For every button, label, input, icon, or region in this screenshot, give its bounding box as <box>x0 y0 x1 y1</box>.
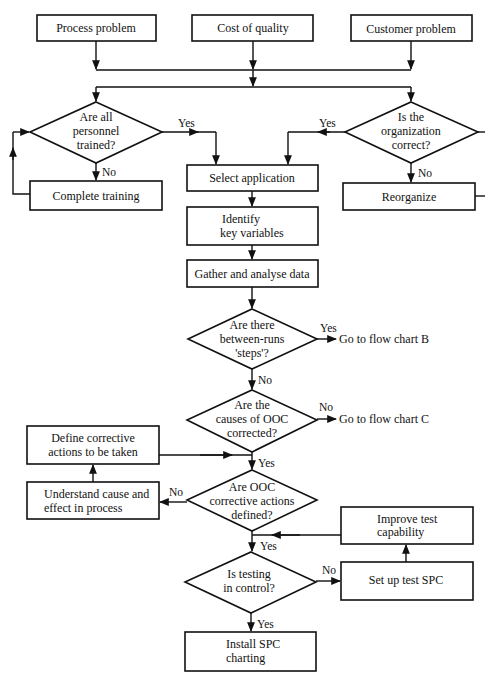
set-up-test-spc-box: Set up test SPC <box>341 562 473 600</box>
install-spc-charting-box: Install SPC charting <box>185 632 316 671</box>
ooc-causes-no-label: No <box>319 401 333 413</box>
svg-text:personnel: personnel <box>73 124 120 138</box>
svg-text:Is the: Is the <box>398 110 424 124</box>
svg-text:correct?: correct? <box>392 138 431 152</box>
complete-training-box: Complete training <box>30 181 162 210</box>
improve-test-capability-box: Improve test capability <box>341 507 473 544</box>
organization-correct-yes-label: Yes <box>319 117 336 129</box>
svg-text:Are OOC: Are OOC <box>229 480 275 494</box>
svg-text:corrective actions: corrective actions <box>210 494 295 508</box>
define-corrective-actions-box: Define corrective actions to be taken <box>27 426 159 464</box>
customer-problem-box: Customer problem <box>351 15 472 41</box>
svg-text:trained?: trained? <box>77 138 116 152</box>
svg-text:organization: organization <box>381 124 441 138</box>
process-problem-box: Process problem <box>37 15 156 41</box>
svg-text:Define corrective: Define corrective <box>51 431 135 445</box>
decision-between-runs-steps: Are there between-runs 'steps'? <box>188 309 317 369</box>
personnel-trained-yes-label: Yes <box>178 117 195 129</box>
svg-text:Are there: Are there <box>230 318 275 332</box>
between-runs-no-label: No <box>258 374 272 386</box>
ooc-actions-yes-label: Yes <box>260 540 277 552</box>
svg-text:Understand cause and: Understand cause and <box>44 487 149 501</box>
svg-text:Are all: Are all <box>80 110 114 124</box>
svg-text:defined?: defined? <box>231 508 272 522</box>
between-runs-yes-label: Yes <box>320 322 337 334</box>
identify-key-variables-box: Identify key variables <box>187 207 318 245</box>
svg-text:Reorganize: Reorganize <box>382 190 436 204</box>
personnel-trained-no-label: No <box>102 166 116 178</box>
svg-text:in control?: in control? <box>223 581 275 595</box>
decision-ooc-causes-corrected: Are the causes of OOC corrected? <box>187 390 317 452</box>
svg-text:causes of OOC: causes of OOC <box>216 412 289 426</box>
decision-testing-in-control: Is testing in control? <box>185 552 316 613</box>
svg-text:capability: capability <box>377 525 424 539</box>
cost-of-quality-label: Cost of quality <box>217 21 288 35</box>
svg-text:Set up test SPC: Set up test SPC <box>369 573 443 587</box>
svg-text:'steps'?: 'steps'? <box>235 346 269 360</box>
svg-text:between-runs: between-runs <box>220 332 285 346</box>
svg-text:Select application: Select application <box>209 171 295 185</box>
decision-ooc-actions-defined: Are OOC corrective actions defined? <box>187 470 317 531</box>
svg-text:Improve test: Improve test <box>377 512 438 526</box>
svg-text:Complete training: Complete training <box>53 189 140 203</box>
testing-in-control-no-label: No <box>322 564 336 576</box>
svg-text:corrected?: corrected? <box>227 426 277 440</box>
goto-flow-chart-c: Go to flow chart C <box>339 412 429 426</box>
gather-analyse-data-box: Gather and analyse data <box>187 260 318 287</box>
decision-organization-correct: Is the organization correct? <box>345 102 478 163</box>
goto-flow-chart-b: Go to flow chart B <box>339 332 429 346</box>
testing-in-control-yes-label: Yes <box>257 618 274 630</box>
svg-text:Gather and analyse data: Gather and analyse data <box>195 267 311 281</box>
svg-text:Install SPC: Install SPC <box>226 637 280 651</box>
merge-connectors <box>96 41 411 101</box>
understand-cause-effect-box: Understand cause and effect in process <box>27 482 159 519</box>
flowchart-canvas: Process problem Cost of quality Customer… <box>0 0 493 676</box>
organization-correct-no-label: No <box>418 167 432 179</box>
svg-text:actions to be taken: actions to be taken <box>48 445 138 459</box>
svg-text:charting: charting <box>226 651 265 665</box>
decision-personnel-trained: Are all personnel trained? <box>30 102 162 163</box>
svg-text:key variables: key variables <box>220 226 284 240</box>
select-application-box: Select application <box>187 165 318 191</box>
process-problem-label: Process problem <box>56 21 136 35</box>
ooc-actions-no-label: No <box>169 486 183 498</box>
customer-problem-label: Customer problem <box>366 22 456 36</box>
svg-text:effect in process: effect in process <box>44 501 123 515</box>
ooc-causes-yes-label: Yes <box>258 457 275 469</box>
svg-text:Are the: Are the <box>234 398 270 412</box>
cost-of-quality-box: Cost of quality <box>192 15 313 41</box>
reorganize-box: Reorganize <box>343 183 475 210</box>
svg-text:Identify: Identify <box>222 212 260 226</box>
svg-text:Is testing: Is testing <box>227 567 271 581</box>
